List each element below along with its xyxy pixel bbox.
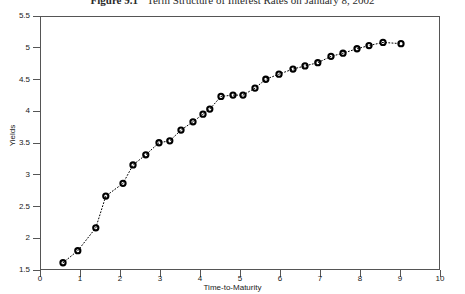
y-axis-tick-label: 3 xyxy=(0,170,30,179)
data-point xyxy=(207,106,212,111)
x-axis-title: Time-to-Maturity xyxy=(0,283,465,292)
x-axis-tick-label: 9 xyxy=(388,274,412,283)
y-axis-tick xyxy=(33,79,40,80)
data-point xyxy=(302,63,307,68)
data-point xyxy=(263,77,268,82)
y-axis-tick-label: 5.5 xyxy=(0,11,30,20)
x-axis-tick-label: 4 xyxy=(188,274,212,283)
y-axis-tick xyxy=(33,16,40,17)
x-axis-tick-label: 7 xyxy=(308,274,332,283)
y-axis-tick xyxy=(33,47,40,48)
data-point xyxy=(354,46,359,51)
y-axis-tick-label: 2.5 xyxy=(0,202,30,211)
x-axis-tick-label: 0 xyxy=(28,274,52,283)
data-point xyxy=(398,41,403,46)
figure-caption-text: Term Structure of Interest Rates on Janu… xyxy=(138,0,374,6)
y-axis-tick-label: 5 xyxy=(0,43,30,52)
y-axis-tick-label: 4.5 xyxy=(0,75,30,84)
y-axis-title: Yields xyxy=(8,106,17,166)
y-axis-tick xyxy=(33,174,40,175)
yield-curve-markers xyxy=(60,40,403,266)
y-axis-tick-label: 1.5 xyxy=(0,265,30,274)
figure-caption: Figure 9.1Term Structure of Interest Rat… xyxy=(0,0,465,7)
data-point xyxy=(167,138,172,143)
y-axis-tick xyxy=(33,206,40,207)
data-point xyxy=(143,152,148,157)
data-point xyxy=(366,43,371,48)
plot-area xyxy=(40,16,440,270)
chart-canvas xyxy=(41,17,441,271)
x-axis-tick-label: 5 xyxy=(228,274,252,283)
yield-curve-line xyxy=(63,42,401,262)
x-axis-tick-label: 1 xyxy=(68,274,92,283)
x-axis-tick-label: 8 xyxy=(348,274,372,283)
y-axis-tick xyxy=(33,238,40,239)
x-axis-tick-label: 2 xyxy=(108,274,132,283)
y-axis-tick xyxy=(33,143,40,144)
figure-number: Figure 9.1 xyxy=(91,0,138,6)
y-axis-tick-label: 2 xyxy=(0,233,30,242)
x-axis-tick-label: 6 xyxy=(268,274,292,283)
series-yield-curve xyxy=(60,40,403,266)
x-axis-tick-label: 3 xyxy=(148,274,172,283)
y-axis-tick xyxy=(33,111,40,112)
data-point xyxy=(315,60,320,65)
x-axis-tick-label: 10 xyxy=(428,274,452,283)
data-point xyxy=(290,66,295,71)
data-point xyxy=(130,162,135,167)
data-point xyxy=(178,127,183,132)
